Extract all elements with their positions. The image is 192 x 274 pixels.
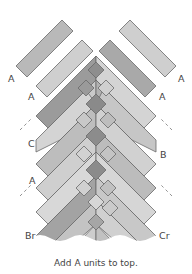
label-cr: Cr [159,231,170,241]
label-a-top-right: A [178,74,185,84]
label-a-top-left: A [8,74,15,84]
label-br: Br [25,231,35,241]
label-b: B [160,150,167,160]
label-a-mid-left: A [29,176,36,186]
diagram-caption: Add A units to top. [0,258,192,268]
label-a-second-right: A [159,92,166,102]
label-c: C [28,139,35,149]
label-a-second-left: A [28,92,35,102]
